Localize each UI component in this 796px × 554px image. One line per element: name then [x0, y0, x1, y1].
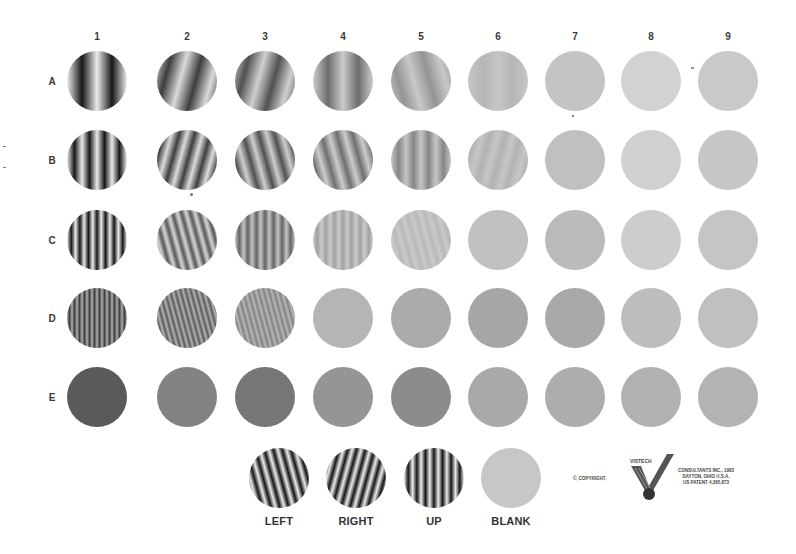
grating-patch-D4 [313, 288, 373, 348]
grating-patch-A3 [235, 51, 295, 111]
grating-patch-D9 [698, 288, 758, 348]
grating-patch-E9 [698, 367, 758, 427]
column-label-7: 7 [572, 31, 578, 42]
grating-patch-C2 [157, 210, 217, 270]
grating-patch-A9 [698, 51, 758, 111]
grating-patch-C8 [621, 210, 681, 270]
margin-mark [3, 146, 6, 147]
sample-label-blank: BLANK [491, 515, 531, 527]
sample-patch-right [326, 448, 386, 508]
grating-patch-A7 [545, 51, 605, 111]
grating-patch-A6 [468, 51, 528, 111]
grating-patch-E5 [391, 367, 451, 427]
grating-patch-E6 [468, 367, 528, 427]
grating-patch-E4 [313, 367, 373, 427]
vistech-logo-icon: VISTECH [627, 452, 675, 502]
grating-patch-C4 [313, 210, 373, 270]
grating-patch-C9 [698, 210, 758, 270]
grating-patch-B3 [235, 130, 295, 190]
contrast-sensitivity-chart: 123456789ABCDELEFTRIGHTUPBLANK [0, 0, 796, 554]
grating-patch-E2 [157, 367, 217, 427]
grating-patch-B7 [545, 130, 605, 190]
margin-mark [3, 167, 6, 168]
grating-patch-D2 [157, 288, 217, 348]
grating-patch-E8 [621, 367, 681, 427]
grating-patch-A8 [621, 51, 681, 111]
logo-text: VISTECH [630, 458, 652, 464]
company-line-3: US PATENT 4,365,873 [678, 480, 734, 486]
grating-patch-D3 [235, 288, 295, 348]
grating-patch-E3 [235, 367, 295, 427]
grating-patch-B4 [313, 130, 373, 190]
sample-patch-up [404, 448, 464, 508]
grating-patch-D6 [468, 288, 528, 348]
column-label-5: 5 [418, 31, 424, 42]
grating-patch-D1 [67, 288, 127, 348]
grating-patch-B6 [468, 130, 528, 190]
grating-patch-C3 [235, 210, 295, 270]
grating-patch-E1 [67, 367, 127, 427]
row-label-A: A [48, 76, 55, 87]
row-label-C: C [48, 235, 55, 246]
grating-patch-C1 [67, 210, 127, 270]
grating-patch-E7 [545, 367, 605, 427]
column-label-1: 1 [94, 31, 100, 42]
sample-label-up: UP [426, 515, 442, 527]
grating-patch-A1 [67, 51, 127, 111]
grating-patch-A2 [157, 51, 217, 111]
copyright-label: ©, COPYRIGHT, [573, 476, 606, 482]
grating-patch-B1 [67, 130, 127, 190]
row-label-E: E [49, 392, 56, 403]
grating-patch-D5 [391, 288, 451, 348]
speck-mark [572, 115, 574, 117]
grating-patch-A4 [313, 51, 373, 111]
row-label-D: D [48, 313, 55, 324]
sample-patch-blank [481, 448, 541, 508]
sample-label-left: LEFT [265, 515, 293, 527]
grating-patch-C5 [391, 210, 451, 270]
grating-patch-B8 [621, 130, 681, 190]
grating-patch-B2 [157, 130, 217, 190]
grating-patch-D7 [545, 288, 605, 348]
row-label-B: B [48, 155, 55, 166]
speck-mark [190, 193, 193, 196]
sample-patch-left [249, 448, 309, 508]
grating-patch-A5 [391, 51, 451, 111]
grating-patch-B5 [391, 130, 451, 190]
column-label-9: 9 [725, 31, 731, 42]
company-info: CONSULTANTS INC., 1983 DAYTON, OHIO U.S.… [678, 468, 734, 486]
sample-label-right: RIGHT [338, 515, 373, 527]
grating-patch-D8 [621, 288, 681, 348]
column-label-3: 3 [262, 31, 268, 42]
grating-patch-C6 [468, 210, 528, 270]
speck-mark [691, 67, 694, 69]
grating-patch-B9 [698, 130, 758, 190]
column-label-6: 6 [495, 31, 501, 42]
grating-patch-C7 [545, 210, 605, 270]
column-label-4: 4 [340, 31, 346, 42]
column-label-8: 8 [648, 31, 654, 42]
column-label-2: 2 [184, 31, 190, 42]
